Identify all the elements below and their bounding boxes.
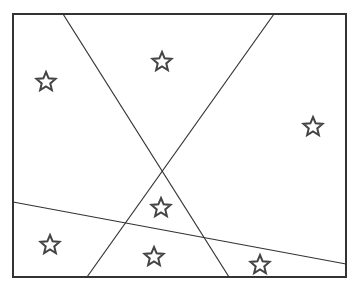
star-icon	[152, 52, 171, 70]
outer-frame	[13, 14, 346, 277]
stars-group	[36, 52, 322, 273]
star-icon	[151, 198, 170, 216]
dividing-lines	[13, 14, 346, 277]
star-icon	[40, 235, 59, 253]
line-3	[13, 202, 346, 264]
line-2	[87, 14, 274, 277]
star-icon	[36, 72, 55, 90]
diagram-canvas	[0, 0, 356, 288]
star-icon	[303, 117, 322, 135]
star-icon	[144, 247, 163, 265]
star-icon	[250, 255, 269, 273]
